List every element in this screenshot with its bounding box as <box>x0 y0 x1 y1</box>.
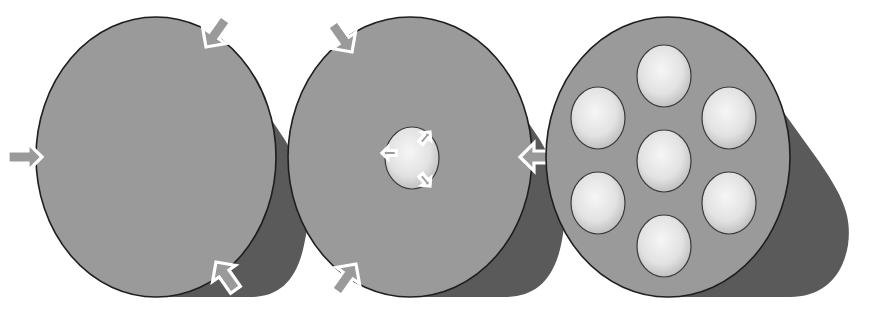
hole-4 <box>571 172 625 234</box>
solid-cylinder-face <box>36 17 276 297</box>
hole-1 <box>571 87 625 149</box>
cylinder-faces <box>8 11 790 300</box>
hole-3 <box>637 130 691 192</box>
hole-0 <box>637 45 691 107</box>
diagram-canvas <box>0 0 884 316</box>
inner-arrow-left-outward-icon <box>382 147 396 159</box>
hole-5 <box>702 172 756 234</box>
multi-hole-cylinder <box>546 17 790 297</box>
hole-2 <box>702 87 756 149</box>
cylinders-diagram <box>0 0 884 316</box>
hole-6 <box>637 215 691 277</box>
solid-cylinder <box>8 11 276 298</box>
